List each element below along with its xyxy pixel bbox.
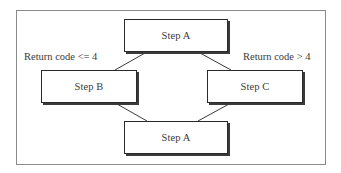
edge-a-to-c — [200, 53, 231, 70]
edge-c-to-a — [198, 104, 229, 121]
node-step-c: Step C — [207, 70, 303, 103]
node-label: Step A — [162, 30, 191, 41]
condition-label-right: Return code > 4 — [243, 51, 310, 62]
node-label: Step B — [75, 81, 104, 92]
node-step-b: Step B — [41, 70, 137, 103]
condition-label-left: Return code <= 4 — [24, 51, 97, 62]
node-step-a-bottom: Step A — [124, 121, 228, 154]
node-label: Step C — [241, 81, 270, 92]
edge-a-to-b — [115, 53, 145, 70]
edge-b-to-a — [117, 104, 147, 121]
node-label: Step A — [162, 132, 191, 143]
node-step-a-top: Step A — [124, 19, 228, 52]
